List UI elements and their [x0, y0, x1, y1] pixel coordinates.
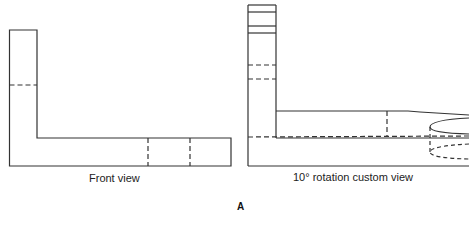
rotated-view-drawing	[248, 5, 469, 166]
front-view-drawing	[10, 30, 232, 166]
figure-label: A	[237, 201, 244, 212]
rotated-view-caption: 10° rotation custom view	[293, 171, 413, 183]
drawing-canvas	[0, 0, 469, 227]
front-view-caption: Front view	[89, 172, 140, 184]
